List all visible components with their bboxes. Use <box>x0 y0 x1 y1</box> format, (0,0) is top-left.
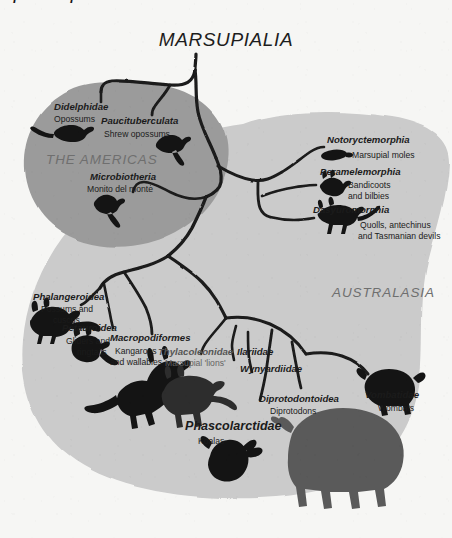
taxon-clade-diprotodontoidea: Diprotodontoidea <box>259 393 340 404</box>
taxon-common-didelphidae: Opossums <box>54 114 95 124</box>
taxon-common-paucituberculata: Shrew opossums <box>104 129 170 139</box>
taxon-common-thylacoleonidae: Marsupial 'lions' <box>165 358 226 368</box>
taxon-clade-microbiotheria: Microbiotheria <box>90 171 157 182</box>
taxon-common-macropodiformes-line2: and wallabies <box>110 357 162 367</box>
taxon-clade-peramelemorphia: Peramelemorphia <box>320 166 401 177</box>
branch-root <box>195 54 196 70</box>
taxon-clade-wynyardiidae: Wynyardiidae <box>240 363 303 374</box>
marsupial-phylogeny-diagram: MARSUPIALIA THE AMERICAS AUSTRALASIA Aus… <box>0 0 452 538</box>
taxon-clade-vombatidae: Vombatidae <box>365 389 420 400</box>
taxon-clade-ilariidae: Ilariidae <box>237 346 274 357</box>
taxon-common-vombatidae: Wombats <box>378 403 414 413</box>
taxon-common-peramelemorphia-line1: Bandicoots <box>348 180 391 190</box>
taxon-common-petauroidea-line1: Gliders and <box>66 336 110 346</box>
taxon-common-notoryctemorphia: Marsupial moles <box>352 150 415 160</box>
taxon-common-dasyuromorphia-line1: Quolls, antechinus <box>360 220 431 230</box>
taxon-common-microbiotheria: Monito del monte <box>87 184 153 194</box>
tree-canvas: MARSUPIALIA THE AMERICAS AUSTRALASIA Aus… <box>0 0 452 538</box>
taxon-common-dasyuromorphia-line2: and Tasmanian devils <box>358 231 441 241</box>
taxon-clade-macropodiformes: Macropodiformes <box>110 332 191 343</box>
taxon-common-macropodiformes-line1: Kangaroos <box>115 346 157 356</box>
taxon-common-peramelemorphia-line2: and bilbies <box>348 191 389 201</box>
taxon-clade-thylacoleonidae: Thylacoleonidae <box>158 346 234 357</box>
taxon-clade-paucituberculata: Paucituberculata <box>101 115 179 126</box>
taxon-clade-notoryctemorphia: Notoryctemorphia <box>327 134 410 145</box>
taxon-clade-phalangeroidea: Phalangeroidea <box>33 291 105 302</box>
page-title: MARSUPIALIA <box>159 29 293 50</box>
taxon-common-diprotodontoidea: Diprotodons <box>270 406 316 416</box>
taxon-clade-didelphidae: Didelphidae <box>54 101 109 112</box>
taxon-clade-phascolarctidae: Phascolarctidae <box>185 419 282 433</box>
curve-label-vombatiformes-text: Vombatiformes <box>0 0 98 3</box>
taxon-common-phalangeroidea-line1: Possums and <box>41 304 93 314</box>
taxon-clade-dasyuromorphia: Dasyuromorphia <box>313 204 390 215</box>
taxon-common-phascolarctidae: Koalas <box>198 436 224 446</box>
region-label-americas: THE AMERICAS <box>46 152 158 167</box>
region-label-australasia: AUSTRALASIA <box>331 285 435 300</box>
taxon-common-petauroidea-line2: ringtails <box>77 347 107 357</box>
